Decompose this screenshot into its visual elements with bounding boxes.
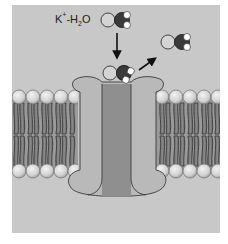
- lipid-bilayer-left: [12, 90, 82, 178]
- lipid-bilayer-right: [155, 90, 225, 178]
- channel-protein: [68, 77, 165, 196]
- diagram-canvas: [0, 0, 228, 244]
- k-ion: [103, 66, 117, 80]
- water-molecule: [115, 12, 131, 29]
- diagram: K+-H2O: [0, 0, 228, 244]
- k-ion: [161, 35, 175, 49]
- ion-label: K+-H2O: [55, 13, 91, 25]
- water-subscript: 2: [78, 20, 82, 27]
- protein-pore: [102, 84, 131, 196]
- label-separator: -H: [66, 13, 78, 25]
- water-molecule: [175, 34, 191, 51]
- water-tail: O: [82, 13, 91, 25]
- k-ion: [101, 13, 115, 27]
- ion-charge: +: [62, 11, 66, 18]
